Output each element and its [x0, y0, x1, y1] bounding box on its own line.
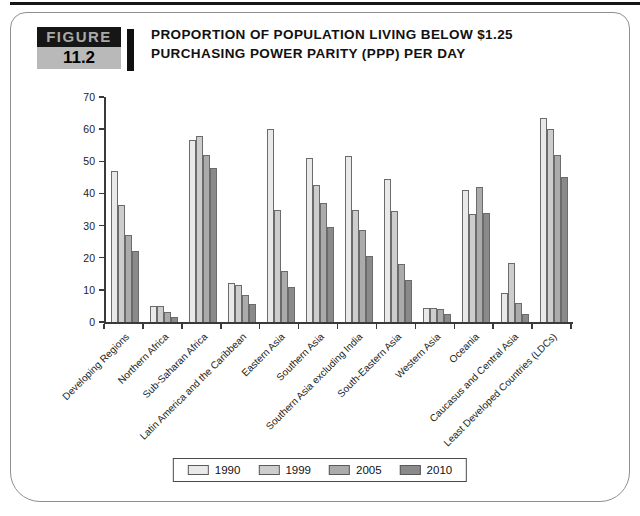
y-axis-tick-label: 10 [69, 284, 95, 296]
x-axis-label: Least Developed Countries (LDCs) [332, 331, 552, 343]
y-axis-tick-label: 20 [69, 252, 95, 264]
bar-2010 [522, 314, 529, 322]
bar-2010 [366, 256, 373, 322]
bar-1999 [274, 210, 281, 323]
bar-1990 [345, 156, 352, 322]
figure-title-line2: PURCHASING POWER PARITY (PPP) PER DAY [151, 44, 513, 63]
legend: 1990199920052010 [173, 458, 467, 482]
legend-item: 2010 [400, 464, 453, 476]
x-axis-tick [220, 324, 222, 329]
legend-swatch [188, 465, 209, 475]
bar-2005 [554, 155, 561, 322]
y-axis-tick-label: 50 [69, 155, 95, 167]
bar-2005 [398, 264, 405, 322]
bar-1990 [228, 283, 235, 322]
bar-1999 [352, 210, 359, 323]
figure-title: PROPORTION OF POPULATION LIVING BELOW $1… [151, 25, 513, 63]
bar-1990 [306, 158, 313, 322]
bar-1990 [540, 118, 547, 322]
bar-2005 [515, 303, 522, 322]
bar-1999 [391, 211, 398, 322]
legend-item: 2005 [329, 464, 382, 476]
legend-label: 1999 [285, 464, 311, 476]
legend-label: 1990 [215, 464, 241, 476]
bar-1990 [384, 179, 391, 322]
y-axis-tick [99, 225, 104, 227]
bar-1999 [235, 285, 242, 322]
legend-swatch [329, 465, 350, 475]
bar-2005 [359, 230, 366, 322]
x-axis-tick [415, 324, 417, 329]
bar-group [417, 97, 456, 322]
bar-1999 [157, 306, 164, 322]
bar-2005 [281, 271, 288, 322]
bar-1999 [196, 136, 203, 322]
bar-1999 [547, 129, 554, 322]
x-axis-tick [570, 324, 572, 329]
y-axis-tick [99, 321, 104, 323]
bar-group [223, 97, 262, 322]
bar-2005 [476, 187, 483, 322]
x-axis-tick [298, 324, 300, 329]
figure-badge-number: 11.2 [37, 47, 121, 69]
legend-item: 1999 [258, 464, 311, 476]
y-axis-tick [99, 257, 104, 259]
legend-swatch [400, 465, 421, 475]
figure-title-line1: PROPORTION OF POPULATION LIVING BELOW $1… [151, 25, 513, 44]
x-axis-tick [454, 324, 456, 329]
bar-2010 [210, 168, 217, 322]
bar-1990 [267, 129, 274, 322]
bar-group [534, 97, 573, 322]
x-axis-tick [181, 324, 183, 329]
bar-1999 [430, 308, 437, 322]
bar-group [495, 97, 534, 322]
bar-2005 [437, 309, 444, 322]
bar-group [262, 97, 301, 322]
bar-1990 [111, 171, 118, 322]
plot-area [104, 97, 573, 324]
bar-group [145, 97, 184, 322]
top-rule [10, 2, 640, 5]
y-axis-tick [99, 161, 104, 163]
y-axis-tick [99, 193, 104, 195]
y-axis-tick [99, 96, 104, 98]
bar-group [340, 97, 379, 322]
legend-label: 2010 [427, 464, 453, 476]
x-axis-tick [103, 324, 105, 329]
y-axis-tick-label: 70 [69, 91, 95, 103]
figure-badge: FIGURE 11.2 [37, 27, 121, 69]
bar-1990 [150, 306, 157, 322]
bar-group [301, 97, 340, 322]
bar-2005 [125, 235, 132, 322]
bar-2010 [405, 280, 412, 322]
y-axis-tick-label: 60 [69, 123, 95, 135]
y-axis-tick [99, 128, 104, 130]
y-axis-tick-label: 30 [69, 220, 95, 232]
figure-badge-label: FIGURE [37, 27, 121, 47]
bar-1999 [118, 205, 125, 322]
figure-panel: FIGURE 11.2 PROPORTION OF POPULATION LIV… [10, 12, 630, 502]
bar-2010 [171, 317, 178, 322]
bar-2010 [561, 177, 568, 322]
bar-1999 [469, 214, 476, 322]
bar-1999 [313, 185, 320, 322]
bar-1990 [501, 293, 508, 322]
bar-group [184, 97, 223, 322]
bar-1990 [189, 140, 196, 322]
bar-1990 [423, 308, 430, 322]
legend-label: 2005 [356, 464, 382, 476]
bar-group [106, 97, 145, 322]
x-axis-tick [531, 324, 533, 329]
bar-2005 [203, 155, 210, 322]
bar-2005 [320, 203, 327, 322]
legend-item: 1990 [188, 464, 241, 476]
x-axis-tick [142, 324, 144, 329]
x-axis-tick [337, 324, 339, 329]
bar-group [378, 97, 417, 322]
bar-2010 [444, 314, 451, 322]
bar-2005 [242, 295, 249, 322]
bar-2010 [327, 227, 334, 322]
bar-1999 [508, 263, 515, 322]
x-axis-tick [492, 324, 494, 329]
bar-2010 [483, 213, 490, 322]
